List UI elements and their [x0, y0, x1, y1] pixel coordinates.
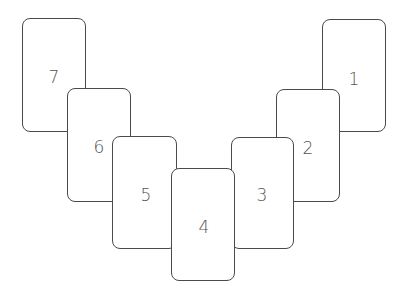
card-number-label: 1 [349, 69, 360, 89]
card-number-label: 2 [303, 138, 314, 158]
card-5: 5 [112, 136, 177, 249]
card-number-label: 6 [94, 137, 105, 157]
card-3: 3 [231, 137, 294, 249]
card-4: 4 [171, 168, 235, 281]
card-number-label: 3 [257, 185, 268, 205]
card-number-label: 7 [49, 67, 60, 87]
card-number-label: 4 [199, 217, 210, 237]
card-number-label: 5 [141, 185, 152, 205]
